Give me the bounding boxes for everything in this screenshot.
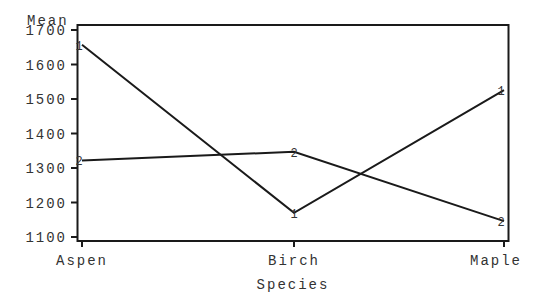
x-tick-label: Maple: [470, 253, 522, 269]
series-lines: 111222: [75, 40, 504, 230]
point-marker: 2: [290, 147, 297, 161]
point-marker: 1: [497, 85, 504, 99]
series-line-1: [82, 45, 504, 213]
y-tick-label: 1600: [25, 58, 67, 74]
x-axis-label: Species: [257, 277, 330, 293]
x-tick-label: Aspen: [56, 253, 108, 269]
point-marker: 1: [75, 40, 82, 54]
y-tick-label: 1300: [25, 161, 67, 177]
point-marker: 2: [497, 216, 504, 230]
y-axis: 1100120013001400150016001700: [25, 23, 77, 246]
x-tick-label: Birch: [268, 253, 320, 269]
y-tick-label: 1100: [25, 230, 67, 246]
point-marker: 1: [290, 208, 297, 222]
x-axis: AspenBirchMaple: [56, 241, 522, 269]
y-tick-label: 1500: [25, 92, 67, 108]
y-tick-label: 1200: [25, 196, 67, 212]
point-marker: 2: [75, 155, 82, 169]
y-tick-label: 1400: [25, 127, 67, 143]
line-chart: 1100120013001400150016001700 AspenBirchM…: [0, 0, 552, 303]
y-axis-label: Mean: [27, 13, 69, 29]
